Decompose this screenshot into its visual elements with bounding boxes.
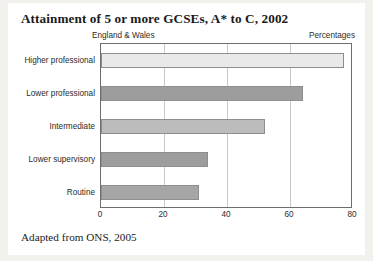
category-label: Higher professional — [24, 53, 95, 68]
x-tick-label: 40 — [221, 210, 230, 219]
x-tick-label: 60 — [284, 210, 293, 219]
figure-card: Attainment of 5 or more GCSEs, A* to C, … — [8, 3, 365, 255]
bar-row: Intermediate — [101, 110, 351, 143]
bar-series: Higher professionalLower professionalInt… — [101, 44, 351, 207]
bar-row: Routine — [101, 176, 351, 209]
bar-row: Lower supervisory — [101, 143, 351, 176]
bar — [101, 86, 303, 101]
x-tick-label: 20 — [158, 210, 167, 219]
chart-unit-label: Percentages — [309, 31, 355, 40]
bar — [101, 53, 344, 68]
bar — [101, 152, 208, 167]
plot-area: Higher professionalLower professionalInt… — [100, 43, 352, 208]
chart-subtitle-region: England & Wales — [92, 31, 155, 40]
bar-row: Lower professional — [101, 77, 351, 110]
category-label: Lower professional — [26, 86, 95, 101]
page-title: Attainment of 5 or more GCSEs, A* to C, … — [21, 11, 288, 27]
page-background: Attainment of 5 or more GCSEs, A* to C, … — [0, 0, 373, 261]
category-label: Intermediate — [49, 119, 95, 134]
bar — [101, 119, 265, 134]
bar-row: Higher professional — [101, 44, 351, 77]
x-tick-label: 0 — [98, 210, 103, 219]
x-tick-label: 80 — [347, 210, 356, 219]
source-caption: Adapted from ONS, 2005 — [21, 231, 137, 243]
category-label: Lower supervisory — [29, 152, 95, 167]
category-label: Routine — [67, 185, 95, 200]
bar — [101, 185, 199, 200]
